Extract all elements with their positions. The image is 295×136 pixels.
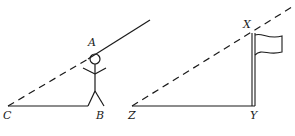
sight-line-dashed xyxy=(8,59,88,106)
flagpole-icon xyxy=(252,33,282,106)
label-x: X xyxy=(242,18,252,31)
label-y: Y xyxy=(250,109,259,122)
label-b: B xyxy=(95,109,104,122)
label-c: C xyxy=(3,109,12,122)
label-a: A xyxy=(87,36,96,49)
label-z: Z xyxy=(127,109,136,122)
right-triangle xyxy=(132,7,292,106)
sight-line-solid xyxy=(88,20,150,59)
sight-line-zx-dashed xyxy=(132,7,292,106)
left-triangle xyxy=(8,20,150,106)
flag-icon xyxy=(255,34,282,55)
similar-triangles-diagram: A C B X Z Y xyxy=(0,0,295,136)
person-icon xyxy=(83,54,106,106)
